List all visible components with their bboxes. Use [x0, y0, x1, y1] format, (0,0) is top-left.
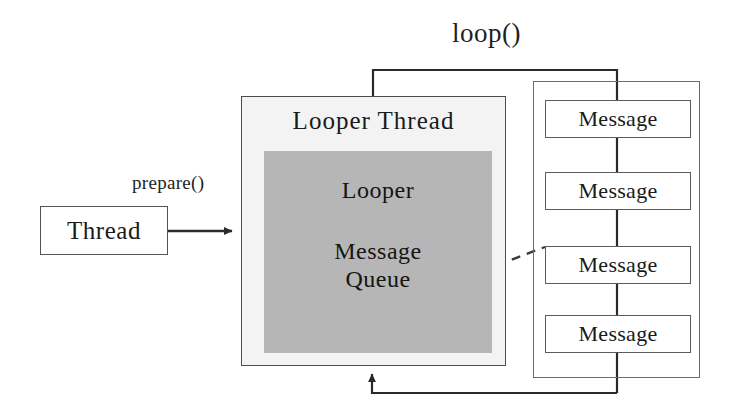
message-node-2[interactable]: Message [545, 172, 691, 210]
message-node-label: Message [578, 252, 657, 278]
message-queue-region[interactable]: Looper Message Queue [264, 151, 492, 353]
thread-node-label: Thread [67, 217, 141, 245]
looper-thread-title: Looper Thread [242, 107, 505, 135]
message-queue-label-line1: Message [334, 238, 421, 266]
message-queue-label: Message Queue [334, 238, 421, 294]
message-node-label: Message [578, 106, 657, 132]
message-node-label: Message [578, 178, 657, 204]
thread-node[interactable]: Thread [40, 206, 168, 255]
message-node-label: Message [578, 321, 657, 347]
message-queue-label-line2: Queue [334, 266, 421, 294]
diagram-canvas: Thread prepare() loop() Looper Thread Lo… [0, 0, 731, 419]
message-node-4[interactable]: Message [545, 315, 691, 353]
message-node-3[interactable]: Message [545, 246, 691, 284]
loop-edge-label: loop() [452, 18, 521, 49]
message-node-1[interactable]: Message [545, 100, 691, 138]
prepare-edge-label: prepare() [132, 172, 204, 194]
looper-label: Looper [342, 177, 414, 204]
looper-thread-node[interactable]: Looper Thread Looper Message Queue [241, 96, 506, 366]
